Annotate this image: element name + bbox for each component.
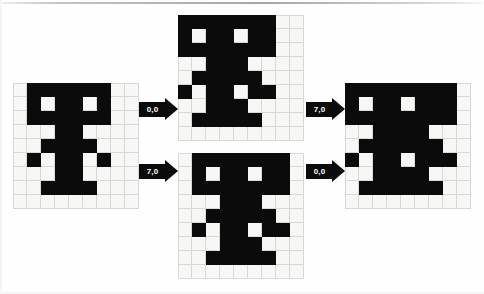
result-grid-cell-1-6[interactable] [429, 97, 443, 111]
top-middle-grid-cell-5-4[interactable] [234, 85, 248, 99]
top-middle-grid-cell-7-6[interactable] [262, 113, 276, 127]
top-middle-grid-cell-4-7[interactable] [276, 71, 290, 85]
result-grid[interactable] [345, 83, 471, 209]
top-middle-grid-cell-8-7[interactable] [276, 127, 290, 141]
top-middle-grid-cell-8-3[interactable] [220, 127, 234, 141]
result-grid-cell-3-3[interactable] [387, 125, 401, 139]
source-grid-cell-4-0[interactable] [13, 139, 27, 153]
bottom-middle-grid-cell-5-7[interactable] [276, 223, 290, 237]
bottom-middle-grid-cell-8-6[interactable] [262, 265, 276, 279]
bottom-middle-grid-cell-5-3[interactable] [220, 223, 234, 237]
result-grid-cell-7-1[interactable] [359, 181, 373, 195]
result-grid-cell-4-0[interactable] [345, 139, 359, 153]
result-grid-cell-2-1[interactable] [359, 111, 373, 125]
result-grid-cell-7-7[interactable] [443, 181, 457, 195]
result-grid-cell-3-7[interactable] [443, 125, 457, 139]
source-grid-cell-8-7[interactable] [111, 195, 125, 209]
source-grid-cell-2-5[interactable] [83, 111, 97, 125]
bottom-middle-grid-cell-6-8[interactable] [290, 237, 304, 251]
bottom-middle-grid-cell-6-5[interactable] [248, 237, 262, 251]
source-grid-cell-3-7[interactable] [111, 125, 125, 139]
bottom-middle-grid-cell-2-2[interactable] [206, 181, 220, 195]
bottom-middle-grid-cell-3-8[interactable] [290, 195, 304, 209]
source-grid-cell-5-3[interactable] [55, 153, 69, 167]
result-grid-cell-2-2[interactable] [373, 111, 387, 125]
top-middle-grid-cell-4-1[interactable] [192, 71, 206, 85]
source-grid-cell-0-5[interactable] [83, 83, 97, 97]
bottom-middle-grid-cell-7-7[interactable] [276, 251, 290, 265]
bottom-middle-grid-cell-7-6[interactable] [262, 251, 276, 265]
source-grid-cell-5-4[interactable] [69, 153, 83, 167]
result-grid-cell-3-6[interactable] [429, 125, 443, 139]
result-grid-cell-5-1[interactable] [359, 153, 373, 167]
bottom-middle-grid-cell-6-7[interactable] [276, 237, 290, 251]
bottom-middle-grid-cell-8-8[interactable] [290, 265, 304, 279]
top-middle-grid-cell-7-8[interactable] [290, 113, 304, 127]
bottom-middle-grid-cell-3-4[interactable] [234, 195, 248, 209]
bottom-middle-grid-cell-0-2[interactable] [206, 153, 220, 167]
top-middle-grid-cell-0-5[interactable] [248, 15, 262, 29]
source-grid-cell-1-0[interactable] [13, 97, 27, 111]
bottom-middle-grid-cell-4-8[interactable] [290, 209, 304, 223]
bottom-middle-grid-cell-5-5[interactable] [248, 223, 262, 237]
bottom-middle-grid-cell-6-1[interactable] [192, 237, 206, 251]
bottom-middle-grid-cell-8-2[interactable] [206, 265, 220, 279]
top-middle-grid-cell-7-1[interactable] [192, 113, 206, 127]
source-grid-cell-7-8[interactable] [125, 181, 139, 195]
arrow-source-to-top[interactable]: 0,0 [139, 98, 178, 120]
bottom-middle-grid-cell-7-1[interactable] [192, 251, 206, 265]
top-middle-grid-cell-4-4[interactable] [234, 71, 248, 85]
bottom-middle-grid-cell-6-6[interactable] [262, 237, 276, 251]
result-grid-cell-8-3[interactable] [387, 195, 401, 209]
top-middle-grid-cell-4-0[interactable] [178, 71, 192, 85]
source-grid-cell-8-8[interactable] [125, 195, 139, 209]
source-grid-cell-2-1[interactable] [27, 111, 41, 125]
bottom-middle-grid-cell-7-8[interactable] [290, 251, 304, 265]
source-grid-cell-1-8[interactable] [125, 97, 139, 111]
source-grid-cell-7-5[interactable] [83, 181, 97, 195]
top-middle-grid-cell-1-1[interactable] [192, 29, 206, 43]
source-grid-cell-7-7[interactable] [111, 181, 125, 195]
top-middle-grid-cell-0-7[interactable] [276, 15, 290, 29]
result-grid-cell-8-2[interactable] [373, 195, 387, 209]
top-middle-grid-cell-5-8[interactable] [290, 85, 304, 99]
top-middle-grid-cell-1-3[interactable] [220, 29, 234, 43]
top-middle-grid-cell-2-7[interactable] [276, 43, 290, 57]
bottom-middle-grid-cell-5-2[interactable] [206, 223, 220, 237]
source-grid-cell-8-5[interactable] [83, 195, 97, 209]
result-grid-cell-0-5[interactable] [415, 83, 429, 97]
bottom-middle-grid-cell-2-8[interactable] [290, 181, 304, 195]
source-grid-cell-3-6[interactable] [97, 125, 111, 139]
source-grid-cell-2-3[interactable] [55, 111, 69, 125]
source-grid-cell-0-1[interactable] [27, 83, 41, 97]
arrow-bottom-to-result[interactable]: 0,0 [306, 160, 345, 182]
source-grid-cell-2-7[interactable] [111, 111, 125, 125]
result-grid-cell-5-4[interactable] [401, 153, 415, 167]
top-middle-grid-cell-6-5[interactable] [248, 99, 262, 113]
source-grid-cell-6-6[interactable] [97, 167, 111, 181]
result-grid-cell-0-0[interactable] [345, 83, 359, 97]
result-grid-cell-5-0[interactable] [345, 153, 359, 167]
source-grid-cell-0-2[interactable] [41, 83, 55, 97]
top-middle-grid-cell-6-7[interactable] [276, 99, 290, 113]
bottom-middle-grid-cell-0-1[interactable] [192, 153, 206, 167]
bottom-middle-grid-cell-1-6[interactable] [262, 167, 276, 181]
source-grid-cell-8-6[interactable] [97, 195, 111, 209]
top-middle-grid-cell-5-2[interactable] [206, 85, 220, 99]
bottom-middle-grid-cell-3-6[interactable] [262, 195, 276, 209]
source-grid-cell-6-5[interactable] [83, 167, 97, 181]
top-middle-grid-cell-0-1[interactable] [192, 15, 206, 29]
source-grid-cell-0-3[interactable] [55, 83, 69, 97]
top-middle-grid-cell-8-4[interactable] [234, 127, 248, 141]
top-middle-grid-cell-2-4[interactable] [234, 43, 248, 57]
bottom-middle-grid-cell-2-1[interactable] [192, 181, 206, 195]
top-middle-grid-cell-4-8[interactable] [290, 71, 304, 85]
result-grid-cell-8-6[interactable] [429, 195, 443, 209]
bottom-middle-grid-cell-5-6[interactable] [262, 223, 276, 237]
source-grid-cell-0-7[interactable] [111, 83, 125, 97]
arrow-source-to-bottom[interactable]: 7,0 [139, 160, 178, 182]
source-grid-cell-1-4[interactable] [69, 97, 83, 111]
bottom-middle-grid-cell-1-2[interactable] [206, 167, 220, 181]
top-middle-grid[interactable] [178, 15, 304, 141]
result-grid-cell-0-8[interactable] [457, 83, 471, 97]
